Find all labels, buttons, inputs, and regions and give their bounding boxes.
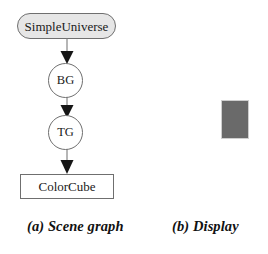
graph-node-bg-label: BG	[57, 74, 74, 87]
graph-node-bg: BG	[48, 63, 83, 98]
graph-node-simpleuniverse-label: SimpleUniverse	[25, 20, 109, 33]
graph-node-colorcube: ColorCube	[20, 174, 114, 199]
caption-scene-graph: (a) Scene graph	[27, 218, 124, 235]
graph-node-simpleuniverse: SimpleUniverse	[17, 13, 116, 39]
arrowhead-icon	[61, 51, 74, 64]
graph-node-colorcube-label: ColorCube	[38, 180, 95, 193]
figure-scene-graph-and-display: SimpleUniverse BG TG ColorCube (a) Scene…	[0, 0, 268, 254]
graph-edge-simpleuniverse-to-bg	[56, 38, 78, 65]
graph-node-tg: TG	[48, 115, 83, 150]
graph-edge-tg-to-colorcube	[56, 149, 78, 176]
display-color-cube-render	[222, 101, 248, 138]
arrowhead-icon	[61, 160, 74, 174]
graph-node-tg-label: TG	[57, 126, 74, 139]
caption-display: (b) Display	[172, 218, 239, 235]
